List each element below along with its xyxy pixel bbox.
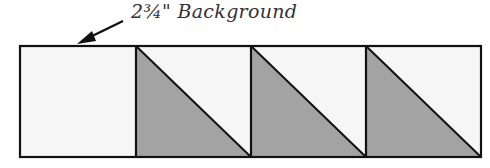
pointer-arrow-icon	[77, 21, 123, 44]
quilt-strip-diagram	[0, 0, 490, 168]
block-3-half-square-triangle	[251, 46, 366, 157]
block-4-half-square-triangle	[366, 46, 481, 157]
block-2-half-square-triangle	[136, 46, 251, 157]
block-1-plain-square	[20, 46, 136, 157]
